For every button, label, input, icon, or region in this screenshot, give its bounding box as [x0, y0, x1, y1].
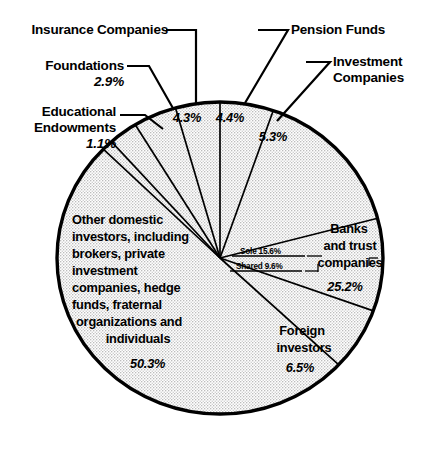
slice-label-banks-pct: 25.2% [305, 280, 385, 294]
callout-investment-companies-line2: Companies [333, 70, 425, 85]
leader-pension-funds [245, 30, 288, 103]
slice-label-pension-pct: 4.4% [208, 111, 252, 125]
callout-educational-endowments-line2: Endowments [8, 120, 116, 135]
slice-label-foreign-line2: investors [264, 341, 344, 355]
callout-investment-companies-line1: Investment [333, 54, 425, 69]
leader-foundations [127, 66, 174, 110]
callout-foundations: Foundations [20, 58, 124, 73]
slice-label-other-pct: 50.3% [130, 357, 210, 371]
slice-label-other-line3: brokers, private [72, 247, 222, 261]
callout-foundations-pct: 2.9% [20, 74, 124, 89]
leader-insurance-companies [166, 30, 196, 105]
callout-educational-endowments-line1: Educational [8, 104, 116, 119]
slice-label-foreign-line1: Foreign [264, 324, 340, 338]
slice-label-other-line8: individuals [78, 332, 198, 346]
slice-label-insurance-pct: 4.3% [165, 111, 209, 125]
slice-label-other-line4: investment [72, 264, 222, 278]
slice-label-banks-line3: companies [305, 256, 395, 270]
callout-insurance-companies: Insurance Companies [18, 22, 168, 37]
slice-label-other-line7: organizations and [76, 315, 232, 329]
slice-label-foreign-pct: 6.5% [266, 361, 334, 375]
slice-label-other-line5: companies, hedge [72, 281, 228, 295]
slice-label-banks-line2: and trust [305, 239, 395, 253]
slice-label-other-line6: funds, fraternal [72, 298, 222, 312]
slice-label-other-line1: Other domestic [72, 213, 222, 227]
slice-label-other-line2: investors, including [72, 230, 232, 244]
slice-label-banks-line1: Banks [311, 222, 387, 236]
slice-sublabel-shared: Shared 9.6% [236, 262, 308, 271]
callout-educational-endowments-pct: 1.1% [8, 136, 116, 151]
callout-pension-funds: Pension Funds [291, 22, 421, 37]
leader-investment-companies [277, 62, 330, 121]
slice-label-investment-pct: 5.3% [251, 130, 295, 144]
slice-sublabel-sole: Sole 15.6% [240, 247, 310, 256]
pie-chart-figure: Insurance Companies Pension Funds Founda… [0, 0, 429, 449]
